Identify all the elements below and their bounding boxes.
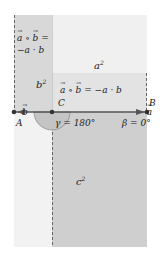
equals: =: [84, 85, 92, 95]
gamma-angle-label: γ = 180°: [55, 119, 95, 128]
c-squared-label: c2: [76, 176, 85, 187]
dot-product-left-line2: −a · b: [17, 46, 44, 55]
vec-a-symbol: a: [17, 34, 22, 43]
lower-left-strip: [14, 112, 52, 247]
point-C-dot: [50, 110, 55, 115]
dot-op: ∘: [25, 33, 29, 43]
beta-angle-label: β = 0°: [122, 119, 151, 128]
c-square-region: [52, 112, 147, 247]
equals: =: [41, 33, 49, 43]
point-B-label: B: [149, 99, 156, 108]
a-squared-label: a2: [94, 60, 104, 71]
dot-product-left-line1: a ∘ b =: [17, 34, 49, 43]
point-A-label: A: [16, 119, 23, 128]
dot-op: ∘: [68, 85, 72, 95]
dot-product-band-label: a ∘ b = −a · b: [60, 86, 122, 95]
vec-a-symbol: a: [60, 86, 65, 95]
point-C-label: C: [58, 99, 65, 108]
vec-b-symbol: b: [33, 34, 39, 43]
point-A-dot: [12, 110, 17, 115]
b-squared-label: b2: [36, 79, 46, 90]
vector-a-label: a: [147, 108, 152, 117]
vector-b-label: b: [22, 108, 28, 117]
neg-a-dot-b: −a · b: [95, 85, 122, 95]
vec-b-symbol: b: [76, 86, 82, 95]
